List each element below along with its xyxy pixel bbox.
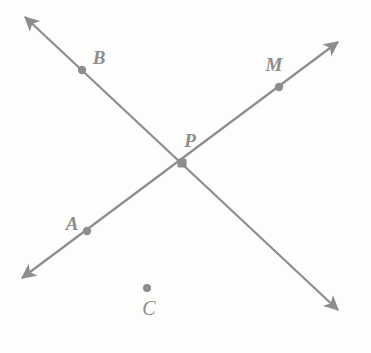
point-label-m: M	[266, 55, 283, 74]
point-label-a: A	[66, 214, 79, 233]
point-dot-m	[275, 83, 283, 91]
point-label-c: C	[142, 298, 155, 318]
point-dot-p	[178, 159, 187, 168]
point-label-p: P	[184, 131, 196, 150]
point-dot-a	[83, 227, 91, 235]
geometry-figure: B M P A C	[0, 0, 371, 353]
diagram-canvas	[0, 0, 371, 353]
point-dot-c	[143, 284, 151, 292]
point-dot-b	[78, 66, 86, 74]
point-label-b: B	[93, 48, 106, 67]
